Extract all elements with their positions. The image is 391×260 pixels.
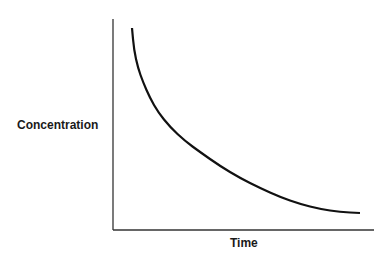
y-axis-label: Concentration bbox=[17, 118, 98, 132]
x-axis-label: Time bbox=[230, 236, 258, 250]
concentration-curve bbox=[132, 28, 360, 213]
